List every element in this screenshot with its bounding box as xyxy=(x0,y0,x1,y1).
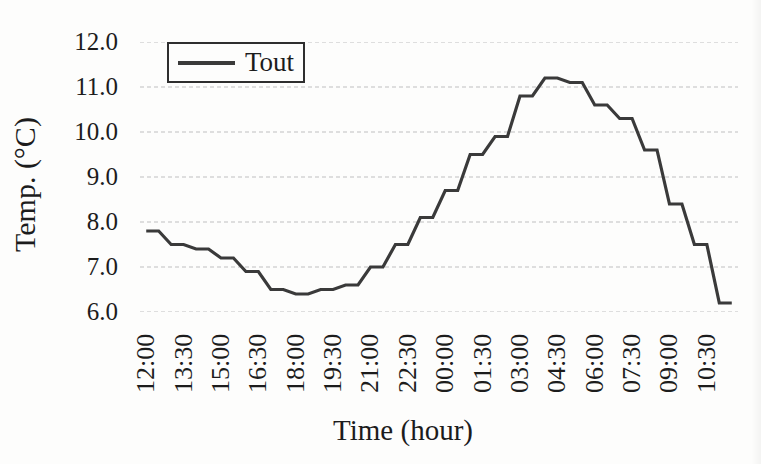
x-axis-title: Time (hour) xyxy=(328,414,478,447)
legend-label: Tout xyxy=(245,49,294,76)
y-tick-label: 7.0 xyxy=(40,252,118,282)
x-tick-label: 01:30 xyxy=(469,334,497,393)
x-tick-label: 21:00 xyxy=(356,334,384,393)
y-tick-label: 9.0 xyxy=(40,162,118,192)
y-tick-label: 12.0 xyxy=(40,27,118,57)
y-tick-label: 6.0 xyxy=(40,297,118,327)
figure-container: Tout Temp. (°C) Time (hour) 6.07.08.09.0… xyxy=(0,0,761,464)
x-tick-label: 10:30 xyxy=(693,334,721,393)
y-axis-title: Temp. (°C) xyxy=(8,117,42,252)
legend-line-sample xyxy=(178,61,235,65)
x-tick-label: 18:00 xyxy=(282,334,310,393)
x-tick-label: 09:00 xyxy=(655,334,683,393)
x-tick-label: 04:30 xyxy=(543,334,571,393)
x-tick-label: 22:30 xyxy=(394,334,422,393)
scan-artifact xyxy=(751,0,761,464)
x-tick-label: 16:30 xyxy=(244,334,272,393)
x-tick-label: 12:00 xyxy=(132,334,160,393)
x-tick-label: 15:00 xyxy=(207,334,235,393)
y-tick-label: 11.0 xyxy=(40,72,118,102)
x-tick-label: 07:30 xyxy=(618,334,646,393)
legend: Tout xyxy=(167,42,305,83)
temperature-line xyxy=(146,78,732,303)
x-tick-label: 00:00 xyxy=(431,334,459,393)
y-tick-label: 8.0 xyxy=(40,207,118,237)
x-tick-label: 06:00 xyxy=(581,334,609,393)
x-tick-label: 13:30 xyxy=(170,334,198,393)
y-tick-label: 10.0 xyxy=(40,117,118,147)
x-tick-label: 03:00 xyxy=(506,334,534,393)
x-tick-label: 19:30 xyxy=(319,334,347,393)
